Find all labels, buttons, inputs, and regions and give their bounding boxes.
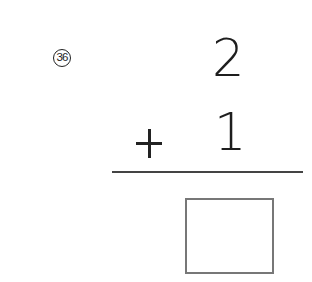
bottom-operand: 1 xyxy=(214,107,246,158)
top-operand: 2 xyxy=(212,33,244,84)
problem-number-badge: 36 xyxy=(53,49,71,67)
answer-box[interactable] xyxy=(185,198,274,274)
sum-rule-line xyxy=(112,171,303,173)
plus-sign-icon xyxy=(136,129,162,158)
